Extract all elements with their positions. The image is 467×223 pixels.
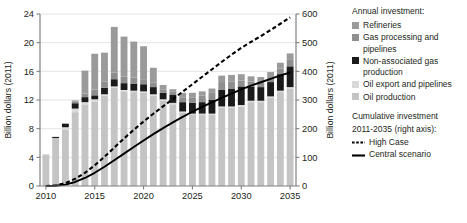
legend-swatch-oil-export: [352, 81, 359, 88]
bar-segment: [257, 102, 264, 186]
bar-segment: [82, 97, 89, 102]
bar-segment: [179, 113, 186, 186]
legend-swatch-non-associated-gas: [352, 57, 359, 64]
legend-spacer: [352, 104, 467, 111]
bar-segment: [52, 138, 59, 186]
bar-segment: [160, 101, 167, 186]
y2-axis-tick-label: 500: [302, 38, 318, 48]
bar-segment: [267, 72, 274, 77]
bar-segment: [121, 77, 128, 83]
bar-segment: [72, 112, 79, 186]
legend-item-non-associated-gas: Non-associated gas production: [352, 56, 467, 78]
legend-swatch-gas-processing: [352, 34, 359, 41]
bar-segment: [150, 83, 157, 87]
bar-segment: [130, 77, 137, 83]
bar-segment: [101, 94, 108, 95]
bar-segment: [238, 74, 245, 80]
legend-item-central-scenario: Central scenario: [352, 149, 467, 160]
bar-segment: [267, 96, 274, 97]
bar-segment: [218, 106, 225, 107]
bar-segment: [189, 93, 196, 98]
bar-segment: [277, 91, 284, 92]
bar-segment: [287, 53, 294, 59]
chart-legend: Annual investment: Refineries Gas proces…: [352, 6, 467, 162]
bar-segment: [160, 85, 167, 89]
bar-segment: [140, 91, 147, 92]
bar-segment: [218, 108, 225, 186]
legend-swatch-oil-production: [352, 93, 359, 100]
legend-label-central-scenario: Central scenario: [369, 149, 467, 160]
bar-segment: [121, 37, 128, 77]
bar-segment: [287, 89, 294, 186]
y-axis-tick-label: 12: [24, 95, 34, 105]
y-axis-tick-label: 8: [29, 124, 34, 134]
legend-item-oil-production: Oil production: [352, 92, 467, 103]
y-axis-tick-label: 4: [29, 153, 34, 163]
bar-segment: [140, 79, 147, 84]
bar-segment: [169, 103, 176, 104]
bar-segment: [111, 73, 118, 79]
bar-segment: [111, 88, 118, 186]
y2-axis-tick-label: 100: [302, 153, 318, 163]
bar-segment: [121, 91, 128, 186]
chart-figure: 0481216202401002003004005006002010201520…: [0, 0, 467, 223]
bar-segment: [160, 99, 167, 100]
bar-segment: [91, 54, 98, 90]
bar-segment: [150, 94, 157, 95]
legend-label-high-case: High Case: [369, 137, 467, 148]
bar-segment: [287, 66, 294, 87]
x-axis-tick-label: 2030: [231, 191, 252, 201]
y2-axis-tick-label: 600: [302, 9, 318, 19]
bar-segment: [62, 124, 69, 127]
bar-segment: [228, 81, 235, 88]
bar-segment: [169, 104, 176, 186]
bar-segment: [209, 93, 216, 100]
bar-segment: [150, 96, 157, 186]
x-axis-tick-label: 2010: [36, 191, 57, 201]
bar-segment: [218, 82, 225, 90]
bar-segment: [121, 90, 128, 91]
bar-segment: [218, 76, 225, 82]
bar-segment: [82, 94, 89, 98]
bar-segment: [111, 27, 118, 73]
bar-segment: [52, 137, 59, 138]
bar-segment: [101, 81, 108, 87]
x-axis-tick-label: 2025: [182, 191, 203, 201]
bar-segment: [228, 75, 235, 81]
bar-segment: [179, 102, 186, 111]
bar-segment: [248, 101, 255, 102]
bar-segment: [238, 81, 245, 87]
bar-segment: [189, 115, 196, 186]
bar-segment: [130, 84, 137, 91]
bar-segment: [72, 109, 79, 113]
bar-segment: [228, 108, 235, 186]
bar-segment: [62, 129, 69, 186]
bar-segment: [228, 89, 235, 107]
y2-axis-tick-label: 200: [302, 124, 318, 134]
bar-segment: [287, 87, 294, 88]
bar-segment: [150, 68, 157, 83]
legend-swatch-refineries: [352, 22, 359, 29]
bar-segment: [169, 89, 176, 91]
y-axis-tick-label: 0: [29, 181, 34, 191]
bar-segment: [199, 114, 206, 115]
x-axis-tick-label: 2035: [280, 191, 301, 201]
bar-segment: [140, 84, 147, 91]
bar-segment: [111, 79, 118, 86]
legend-heading-cumulative-line2: 2011-2035 (right axis):: [352, 124, 467, 135]
y2-axis-tick-label: 0: [302, 181, 307, 191]
legend-label-oil-export: Oil export and pipelines: [363, 79, 467, 90]
legend-item-refineries: Refineries: [352, 20, 467, 31]
legend-item-high-case: High Case: [352, 137, 467, 148]
bar-segment: [111, 86, 118, 87]
legend-item-gas-processing: Gas processing and pipelines: [352, 32, 467, 54]
y-axis-tick-label: 20: [24, 38, 34, 48]
bar-segment: [82, 71, 89, 94]
legend-solid-line-icon: [352, 152, 365, 159]
y2-axis-tick-label: 300: [302, 95, 318, 105]
bar-segment: [277, 68, 284, 74]
x-axis-tick-label: 2015: [84, 191, 105, 201]
legend-item-oil-export: Oil export and pipelines: [352, 79, 467, 90]
bar-segment: [62, 127, 69, 129]
chart-plot-area: 0481216202401002003004005006002010201520…: [0, 0, 340, 223]
